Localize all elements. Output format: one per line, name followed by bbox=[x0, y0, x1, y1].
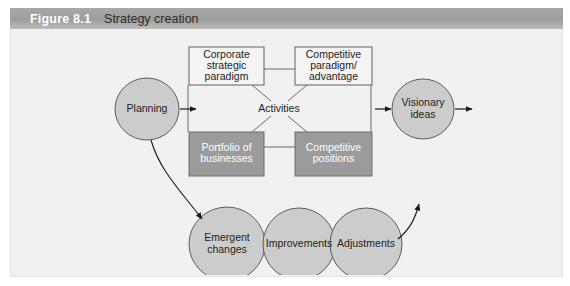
figure-body: Corporate strategic paradigm Competitive… bbox=[10, 29, 563, 277]
node-visionary-ideas-line2: ideas bbox=[410, 108, 435, 120]
figure-number: Figure 8.1 bbox=[30, 12, 91, 26]
box-corporate-strategic-paradigm-line3: paradigm bbox=[205, 70, 249, 82]
activities-label: Activities bbox=[258, 102, 299, 114]
figure-title: Strategy creation bbox=[104, 12, 199, 26]
box-portfolio-of-businesses-line2: businesses bbox=[200, 152, 253, 164]
node-planning-label: Planning bbox=[127, 102, 168, 114]
node-improvements-label: Improvements bbox=[266, 237, 333, 249]
connector-diagonal-bottom-left bbox=[252, 116, 271, 132]
node-emergent-changes-line2: changes bbox=[207, 243, 247, 255]
arrow-adjustments-feedback bbox=[398, 204, 419, 239]
node-visionary-ideas-line1: Visionary bbox=[402, 96, 446, 108]
connector-diagonal-top-right bbox=[288, 85, 307, 101]
figure-header-bar: Figure 8.1 Strategy creation bbox=[10, 8, 563, 29]
connector-diagonal-top-left bbox=[252, 85, 271, 101]
box-competitive-paradigm-advantage-line3: advantage bbox=[309, 70, 358, 82]
node-emergent-changes-line1: Emergent bbox=[204, 231, 250, 243]
box-portfolio-of-businesses-line1: Portfolio of bbox=[201, 141, 251, 153]
box-competitive-positions-line2: positions bbox=[313, 152, 354, 164]
figure-container: Figure 8.1 Strategy creation bbox=[0, 0, 570, 286]
node-adjustments-label: Adjustments bbox=[337, 237, 395, 249]
connector-diagonal-bottom-right bbox=[288, 116, 307, 132]
strategy-creation-diagram: Corporate strategic paradigm Competitive… bbox=[11, 29, 562, 275]
box-competitive-positions-line1: Competitive bbox=[306, 141, 362, 153]
